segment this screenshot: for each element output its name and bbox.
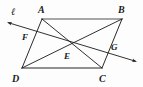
point-label-f: F: [21, 32, 28, 42]
geometry-figure: ℓ A B C D E F G: [0, 0, 143, 87]
point-label-g: G: [111, 42, 118, 52]
vertex-label-a: A: [37, 4, 45, 15]
line-l-label: ℓ: [11, 6, 15, 17]
point-label-e: E: [63, 51, 70, 61]
vertex-label-c: C: [99, 73, 106, 84]
diagonal-bd: [22, 19, 122, 68]
segment-da: [22, 19, 42, 68]
vertex-label-d: D: [11, 73, 19, 84]
vertex-label-b: B: [117, 4, 125, 15]
geometry-canvas: ℓ A B C D E F G: [0, 0, 143, 87]
